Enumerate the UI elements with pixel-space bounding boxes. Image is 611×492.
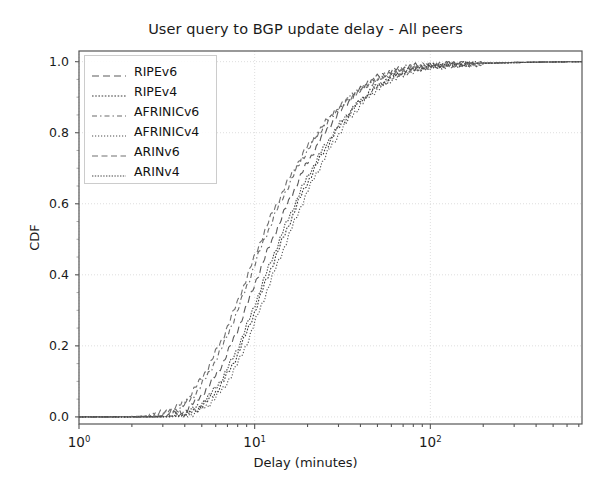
legend-line-swatch [91,87,127,99]
y-tick-label: 1.0 [25,54,69,69]
legend-item[interactable]: RIPEv6 [91,62,216,83]
x-tick-label: 101 [225,434,285,450]
x-tick-label: 100 [49,434,109,450]
legend-line-swatch [91,67,127,79]
legend-line-swatch [91,147,127,159]
legend-item[interactable]: AFRINICv6 [91,102,216,123]
y-axis-title: CDF [27,198,42,278]
legend-label: RIPEv4 [134,86,177,99]
legend-line-swatch [91,107,127,119]
y-tick-label: 0.8 [25,125,69,140]
legend-item[interactable]: AFRINICv4 [91,122,216,143]
y-tick-label: 0.0 [25,409,69,424]
legend-line-swatch [91,127,127,139]
legend-item[interactable]: ARINv6 [91,142,216,163]
legend-line-swatch [91,167,127,179]
legend-label: ARINv6 [134,146,180,159]
x-tick-label: 102 [400,434,460,450]
legend-label: AFRINICv4 [134,126,199,139]
figure-canvas: User query to BGP update delay - All pee… [0,0,611,492]
legend-item[interactable]: ARINv4 [91,162,216,183]
x-axis-title: Delay (minutes) [0,455,611,470]
legend-label: RIPEv6 [134,66,177,79]
legend-item[interactable]: RIPEv4 [91,82,216,103]
legend: RIPEv6RIPEv4AFRINICv6AFRINICv4ARINv6ARIN… [84,55,217,184]
legend-label: AFRINICv6 [134,106,199,119]
y-tick-label: 0.2 [25,338,69,353]
legend-label: ARINv4 [134,166,180,179]
